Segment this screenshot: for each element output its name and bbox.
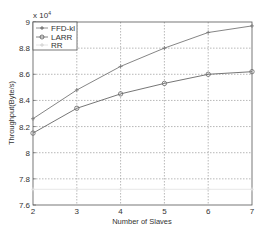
data-point	[75, 187, 79, 191]
x-tick-label: 5	[162, 207, 167, 216]
throughput-chart: 7.67.888.28.48.68.89 234567 x 104 Number…	[0, 0, 264, 230]
y-tick-label: 8.6	[19, 70, 31, 79]
data-point	[206, 187, 210, 191]
y-tick-label: 8.4	[19, 96, 31, 105]
data-point	[31, 187, 35, 191]
y-tick-label: 8.8	[19, 44, 31, 53]
data-point	[206, 30, 210, 34]
data-point	[250, 24, 254, 28]
legend: FFD-kl LARR RR	[33, 22, 77, 50]
y-tick-label: 8	[26, 149, 31, 158]
series-larr	[31, 69, 254, 135]
y-multiplier: x 104	[33, 10, 51, 20]
x-tick-label: 2	[31, 207, 36, 216]
y-tick-label: 7.6	[19, 201, 31, 210]
y-tick-label: 8.2	[19, 123, 31, 132]
x-axis-label: Number of Slaves	[112, 217, 172, 226]
series-rr	[31, 187, 254, 191]
data-point	[119, 187, 123, 191]
y-tick-label: 7.8	[19, 175, 31, 184]
data-point	[250, 187, 254, 191]
x-tick-label: 4	[118, 207, 123, 216]
x-axis-ticks: 234567	[31, 207, 255, 216]
x-tick-label: 3	[75, 207, 80, 216]
x-tick-label: 6	[206, 207, 211, 216]
data-point	[119, 64, 123, 68]
y-axis-label: Throughput(Byte/s)	[7, 80, 16, 145]
svg-text:RR: RR	[51, 41, 63, 50]
y-tick-label: 9	[26, 18, 31, 27]
data-point	[162, 46, 166, 50]
data-point	[162, 187, 166, 191]
x-tick-label: 7	[250, 207, 255, 216]
svg-text:FFD-kl: FFD-kl	[51, 24, 75, 33]
